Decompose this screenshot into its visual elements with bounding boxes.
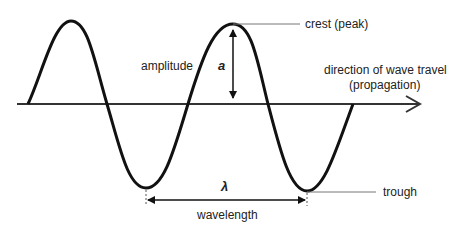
wavelength-symbol: λ <box>221 180 228 194</box>
direction-label-line1: direction of wave travel <box>324 63 447 77</box>
propagation-axis <box>17 96 420 112</box>
wavelength-label: wavelength <box>197 208 258 222</box>
amplitude-label: amplitude <box>141 59 193 73</box>
crest-label: crest (peak) <box>305 17 368 31</box>
amplitude-symbol: a <box>218 59 225 73</box>
direction-label-line2: (propagation) <box>349 78 420 92</box>
trough-label: trough <box>383 185 417 199</box>
wave-curve <box>28 21 353 191</box>
